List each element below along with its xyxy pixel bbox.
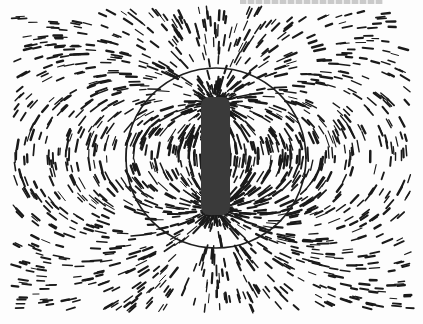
field-lines-figure: [0, 0, 423, 324]
bar-magnet: [201, 97, 230, 215]
magnetic-field-image: [0, 0, 423, 324]
